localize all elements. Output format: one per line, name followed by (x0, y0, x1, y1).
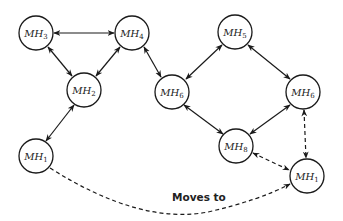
node-mh5: MH5 (218, 15, 252, 49)
node-mh4: MH4 (115, 16, 149, 50)
edge-mh2-mh1 (46, 105, 74, 141)
node-mh6-right: MH6 (286, 75, 320, 109)
node-mh1-right: MH1 (290, 159, 324, 193)
edge-mh6right-mh8 (250, 105, 290, 134)
moves-to-label: Moves to (172, 191, 226, 203)
edge-mh8-mh1right (253, 153, 289, 170)
edge-mh6right-mh1right (304, 110, 306, 158)
edge-mh5-mh6-right (248, 45, 290, 79)
node-mh6: MH6 (155, 75, 189, 109)
node-mh2: MH2 (67, 73, 101, 107)
edge-mh3-mh2 (48, 47, 72, 76)
node-mh1-left: MH1 (19, 139, 53, 173)
graph-svg: MH3 MH4 MH2 MH1 MH5 MH6 MH6 MH8 (0, 0, 343, 221)
node-mh8: MH8 (219, 129, 253, 163)
diagram-canvas: MH3 MH4 MH2 MH1 MH5 MH6 MH6 MH8 (0, 0, 343, 221)
edge-mh6-mh8 (184, 105, 223, 134)
edge-mh4-mh6 (144, 47, 161, 77)
edge-mh4-mh2 (96, 47, 120, 76)
node-mh3: MH3 (19, 16, 53, 50)
edge-mh5-mh6 (186, 45, 222, 79)
edge-moves-to (50, 168, 290, 214)
